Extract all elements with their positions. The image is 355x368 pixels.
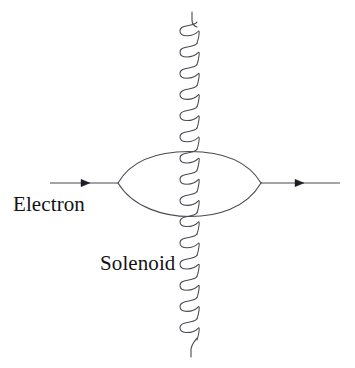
diagram-canvas — [0, 0, 355, 368]
solenoid-label: Solenoid — [100, 253, 175, 274]
solenoid-turn — [180, 64, 199, 85]
solenoid-turn — [180, 319, 199, 340]
electron-loop-upper-arc — [118, 152, 261, 184]
physics-diagram-figure: Electron Solenoid — [0, 0, 355, 368]
solenoid-turn — [180, 22, 199, 43]
solenoid-turn — [180, 234, 199, 255]
solenoid-turn — [180, 255, 199, 276]
solenoid-turn — [180, 43, 199, 64]
solenoid-turn — [180, 86, 199, 107]
electron-label: Electron — [13, 194, 85, 215]
solenoid-turn — [180, 170, 199, 191]
solenoid-turn — [180, 149, 199, 170]
solenoid-turn — [180, 107, 199, 128]
solenoid-bottom-lead — [191, 338, 197, 357]
electron-loop-lower-arc — [118, 183, 261, 217]
solenoid-turn — [180, 128, 199, 149]
electron-incoming-arrow-icon — [81, 179, 90, 186]
solenoid-turn — [180, 298, 199, 319]
solenoid-turn — [180, 192, 199, 213]
solenoid-turn — [180, 276, 199, 297]
electron-outgoing-arrow-icon — [295, 179, 304, 186]
solenoid-coil-group — [180, 12, 199, 357]
solenoid-turns — [180, 22, 199, 340]
